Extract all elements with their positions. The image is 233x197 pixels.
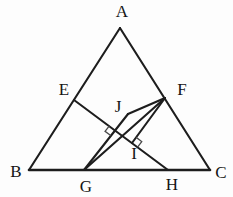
point-label-E: E [59, 80, 69, 99]
point-label-I: I [131, 144, 137, 163]
point-label-B: B [10, 162, 21, 181]
point-label-C: C [215, 163, 226, 182]
point-label-H: H [166, 175, 178, 194]
point-label-A: A [116, 2, 129, 21]
side-AB [29, 28, 120, 170]
triangle-diagram-svg: ABCEFGHJI [0, 0, 233, 197]
point-label-J: J [115, 97, 122, 116]
geometry-figure: ABCEFGHJI [0, 0, 233, 197]
point-label-F: F [177, 80, 186, 99]
segment-GJ [84, 114, 128, 170]
point-label-G: G [80, 177, 92, 196]
